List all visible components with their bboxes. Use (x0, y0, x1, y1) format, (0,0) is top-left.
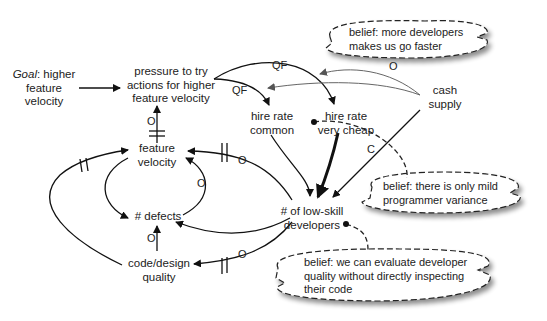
node-feature-velocity: feature velocity (124, 142, 190, 169)
belief-mild-variance-text: belief: there is only mild programmer va… (383, 180, 498, 207)
node-pressure: pressure to try actions for higher featu… (116, 65, 226, 106)
node-cash-supply: cash supply (420, 84, 470, 111)
edge-label-o-pressure: O (147, 115, 156, 127)
edge-label-o-quality: O (238, 248, 247, 260)
belief-more-developers-text: belief: more developers makes us go fast… (349, 26, 463, 53)
node-hire-rate-very-cheap: hire rate very cheap (312, 110, 380, 137)
node-goal: Goal: higher feature velocity (4, 68, 84, 109)
edge-label-o-cash: O (389, 60, 398, 72)
edge-label-qf-left: QF (232, 84, 247, 96)
edge-label-c-cash: C (367, 143, 375, 155)
edge-label-o-loop: O (197, 177, 206, 189)
edge-label-o-feature-velocity: O (238, 154, 247, 166)
edge-label-qf-top: QF (272, 59, 287, 71)
edge-label-o-defects: O (147, 232, 156, 244)
node-code-design-quality: code/design quality (124, 257, 194, 284)
node-hire-rate-common: hire rate common (240, 110, 304, 137)
node-defects: # defects (126, 210, 190, 224)
belief-evaluate-quality-text: belief: we can evaluate developer qualit… (304, 256, 467, 297)
node-low-skill-developers: # of low-skill developers (280, 205, 344, 232)
